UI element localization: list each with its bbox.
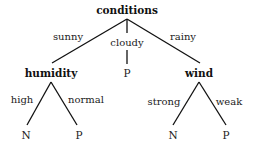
node-humidity: humidity (25, 67, 79, 79)
leaf-weak: P (222, 129, 229, 141)
node-wind: wind (184, 67, 214, 79)
edge-label-normal: normal (68, 94, 104, 105)
edge-label-rainy: rainy (170, 31, 196, 42)
leaf-strong: N (168, 129, 177, 141)
edge-label-strong: strong (148, 96, 181, 107)
leaf-cloudy: P (123, 67, 130, 79)
edge-label-sunny: sunny (53, 31, 83, 42)
decision-tree: conditions sunny cloudy rainy humidity P… (0, 0, 255, 146)
edge-label-weak: weak (216, 96, 243, 107)
edge-label-cloudy: cloudy (110, 37, 144, 48)
edge-label-high: high (11, 94, 34, 105)
leaf-normal: P (75, 129, 82, 141)
root-node: conditions (96, 4, 158, 16)
leaf-high: N (21, 129, 30, 141)
